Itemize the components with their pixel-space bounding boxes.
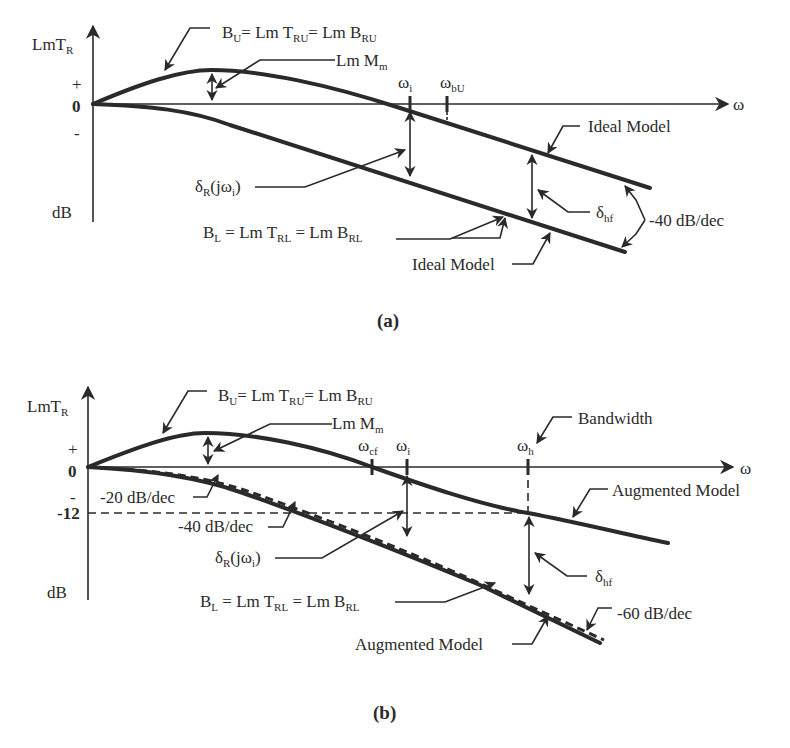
slope-60-label: -60 dB/dec <box>617 604 693 623</box>
lm-mm-label: Lm Mm <box>332 414 384 435</box>
omega-axis-label: ω <box>740 459 751 478</box>
y-axis-label: LmTR <box>32 35 74 56</box>
bode-bounds-figure: ω LmTR + 0 - dB ωi ωbU Lm Mm BU= Lm TRU=… <box>0 0 790 748</box>
y-tick-minus: - <box>74 124 80 143</box>
upper-bound-label: BU= Lm TRU= Lm BRU <box>222 23 377 44</box>
lm-mm-label: Lm Mm <box>336 51 388 72</box>
y-axis-unit: dB <box>52 203 72 222</box>
delta-hf-label: δhf <box>596 203 614 224</box>
slope-20-label: -20 dB/dec <box>100 488 176 507</box>
lower-bound-label: BL = Lm TRL = Lm BRL <box>200 592 360 613</box>
y-tick-plus: + <box>72 75 82 94</box>
augmented-model-upper-label: Augmented Model <box>612 481 740 500</box>
delta-hf-label: δhf <box>595 567 613 588</box>
lower-bound-label: BL = Lm TRL = Lm BRL <box>203 223 363 244</box>
augmented-model-lower-label: Augmented Model <box>355 635 483 654</box>
omega-i-label: ωi <box>398 73 412 94</box>
y-tick-plus: + <box>68 440 78 459</box>
caption-b: (b) <box>373 702 396 724</box>
bandwidth-label: Bandwidth <box>578 409 653 428</box>
lower-bound-curve <box>93 104 625 252</box>
ideal-model-lower-label: Ideal Model <box>412 255 495 274</box>
omega-axis-label: ω <box>733 95 744 114</box>
delta-r-label: δR(jωi) <box>215 548 261 569</box>
omega-bu-label: ωbU <box>440 73 465 94</box>
delta-r-label: δR(jωi) <box>195 177 241 198</box>
omega-h-label: ωh <box>517 436 534 457</box>
y-axis-unit: dB <box>47 583 67 602</box>
figure-a: ω LmTR + 0 - dB ωi ωbU Lm Mm BU= Lm TRU=… <box>32 23 744 332</box>
y-tick-minus12: -12 <box>57 504 80 523</box>
ideal-model-upper-label: Ideal Model <box>588 117 671 136</box>
caption-a: (a) <box>377 310 399 332</box>
y-tick-zero: 0 <box>68 462 77 481</box>
figure-b: ω LmTR + 0 - -12 dB ωcf ωi ωh Bandwidth … <box>27 386 751 724</box>
y-axis-label: LmTR <box>27 397 69 418</box>
omega-cf-label: ωcf <box>358 436 378 457</box>
slope-40-label: -40 dB/dec <box>178 517 254 536</box>
slope-40-label: -40 dB/dec <box>649 211 725 230</box>
upper-bound-label: BU= Lm TRU= Lm BRU <box>218 386 373 407</box>
omega-i-label: ωi <box>396 436 410 457</box>
y-tick-zero: 0 <box>72 97 81 116</box>
